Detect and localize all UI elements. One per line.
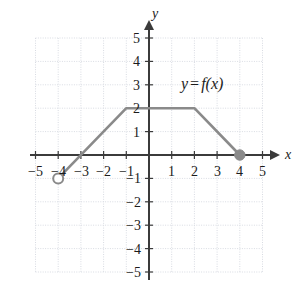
y-tick-label--3: −3 [126,219,141,233]
x-tick-label-3: 3 [214,165,221,179]
curve-equation-rhs: f(x) [201,75,223,92]
curve-equation-operator: = [188,75,201,92]
y-tick-label--1: −1 [126,172,141,186]
x-tick-label-4: 4 [236,165,243,179]
y-tick-label--4: −4 [126,243,141,257]
y-tick-label--5: −5 [126,266,141,280]
closed-endpoint-marker [235,150,245,160]
curve-equation-label: y=f(x) [181,76,223,92]
x-tick-label--2: −2 [96,165,111,179]
graph-canvas [0,0,302,301]
x-tick-label-2: 2 [191,165,198,179]
x-axis-label: x [285,148,291,162]
y-tick-label-5: 5 [133,32,140,46]
x-tick-label--4: −4 [51,165,66,179]
y-tick-label--2: −2 [126,196,141,210]
x-tick-label--5: −5 [28,165,43,179]
y-tick-label-4: 4 [133,55,140,69]
y-tick-label-2: 2 [133,102,140,116]
function-graph-figure: −5 −4 −3 −2 −1 1 2 3 4 5 5 4 3 2 1 −1 −2… [0,0,302,301]
y-tick-label-3: 3 [133,79,140,93]
y-tick-label-1: 1 [133,126,140,140]
x-tick-label-1: 1 [168,165,175,179]
y-axis-label: y [152,7,158,21]
x-tick-label-5: 5 [259,165,266,179]
x-tick-label--3: −3 [74,165,89,179]
